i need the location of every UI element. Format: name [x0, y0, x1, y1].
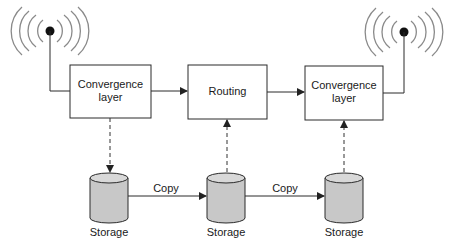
storage-right-label: Storage	[314, 226, 374, 239]
convergence-right-line2: layer	[305, 92, 383, 105]
storage-left-label: Storage	[79, 226, 139, 239]
storage-middle-label: Storage	[196, 226, 256, 239]
convergence-left-line2: layer	[70, 91, 151, 104]
convergence-layer-left-label: Convergence layer	[70, 78, 151, 104]
convergence-right-line1: Convergence	[305, 79, 383, 92]
storage-right-cylinder-icon	[325, 173, 363, 223]
storage-left-cylinder-icon	[90, 173, 128, 223]
copy-label-2: Copy	[265, 182, 305, 195]
storage-middle-cylinder-icon	[207, 173, 245, 223]
copy-label-1: Copy	[146, 182, 186, 195]
convergence-layer-right-label: Convergence layer	[305, 79, 383, 105]
routing-label: Routing	[188, 85, 267, 98]
diagram-canvas	[0, 0, 451, 249]
convergence-left-line1: Convergence	[70, 78, 151, 91]
